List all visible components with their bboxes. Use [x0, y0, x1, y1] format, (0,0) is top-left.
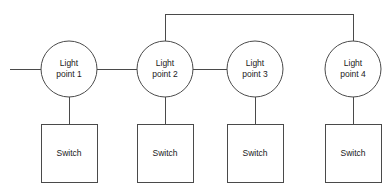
switch-label-2: Switch — [152, 148, 177, 158]
light-point-node-4: Light point 4 — [325, 41, 381, 97]
light-point-node-1: Light point 1 — [41, 41, 97, 97]
switch-label-3: Switch — [242, 148, 267, 158]
switch-node-3: Switch — [227, 124, 283, 182]
light-point-label-2-line2: point 2 — [152, 69, 178, 79]
light-point-node-2: Light point 2 — [137, 41, 193, 97]
light-point-label-4-line1: Light — [344, 58, 363, 68]
light-point-label-2-line1: Light — [156, 58, 175, 68]
switch-label-1: Switch — [56, 148, 81, 158]
light-point-label-4-line2: point 4 — [340, 69, 366, 79]
diagram-canvas: Switch Switch Switch Switch Light point … — [0, 0, 390, 188]
switch-node-4: Switch — [325, 124, 381, 182]
lighting-circuit-diagram: Switch Switch Switch Switch Light point … — [0, 0, 390, 188]
light-point-label-1-line2: point 1 — [56, 69, 82, 79]
wire-lp2-lp4-overhead — [165, 14, 353, 41]
switch-label-4: Switch — [340, 148, 365, 158]
light-point-node-3: Light point 3 — [227, 41, 283, 97]
light-point-label-1-line1: Light — [60, 58, 79, 68]
light-point-label-3-line2: point 3 — [242, 69, 268, 79]
switch-node-2: Switch — [137, 124, 193, 182]
light-point-label-3-line1: Light — [246, 58, 265, 68]
switch-group: Switch Switch Switch Switch — [41, 124, 381, 182]
switch-node-1: Switch — [41, 124, 97, 182]
